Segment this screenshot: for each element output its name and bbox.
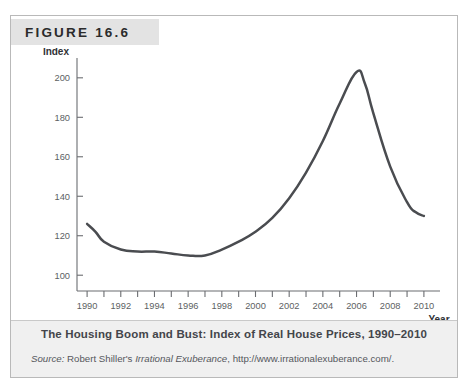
source-text-before: Robert Shiller's xyxy=(64,353,135,364)
x-axis-tick-label: 1994 xyxy=(144,301,165,311)
x-axis-tick-label: 2004 xyxy=(313,301,334,311)
figure-number-label: FIGURE 16.6 xyxy=(25,25,130,40)
y-axis-tick-label: 180 xyxy=(54,113,70,123)
data-series-line xyxy=(87,71,424,257)
x-axis-tick-label: 1998 xyxy=(211,301,232,311)
chart-plot-area: 1001201401601802001990199219941996199820… xyxy=(11,48,457,323)
figure-caption-title: The Housing Boom and Bust: Index of Real… xyxy=(11,328,457,340)
source-prefix: Source: xyxy=(31,353,64,364)
figure-header: FIGURE 16.6 xyxy=(11,16,457,48)
y-axis-tick-label: 200 xyxy=(54,73,70,83)
figure-container: FIGURE 16.6 1001201401601802001990199219… xyxy=(10,15,458,378)
source-work-title: Irrational Exuberance xyxy=(135,353,227,364)
source-text-after: , http://www.irrationalexuberance.com/. xyxy=(227,353,394,364)
y-axis-tick-label: 100 xyxy=(54,271,70,281)
x-axis-tick-label: 1996 xyxy=(178,301,199,311)
y-axis-title: Index xyxy=(43,48,70,57)
figure-caption-band: The Housing Boom and Bust: Index of Real… xyxy=(11,320,457,377)
x-axis-tick-label: 2010 xyxy=(414,301,435,311)
y-axis-tick-label: 140 xyxy=(54,192,70,202)
line-chart: 1001201401601802001990199219941996199820… xyxy=(11,48,457,323)
x-axis-tick-label: 2000 xyxy=(245,301,266,311)
y-axis-tick-label: 120 xyxy=(54,231,70,241)
y-axis-tick-label: 160 xyxy=(54,152,70,162)
x-axis-tick-label: 1992 xyxy=(110,301,131,311)
x-axis-tick-label: 2008 xyxy=(380,301,401,311)
x-axis-tick-label: 2002 xyxy=(279,301,300,311)
figure-source-line: Source: Robert Shiller's Irrational Exub… xyxy=(31,353,394,364)
x-axis-tick-label: 1990 xyxy=(77,301,98,311)
x-axis-tick-label: 2006 xyxy=(346,301,367,311)
